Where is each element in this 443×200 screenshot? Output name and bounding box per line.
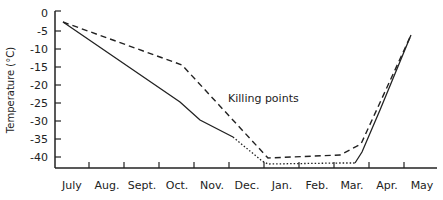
y-ticks: 0-5-10-15-20-25-30-35-40 — [30, 7, 61, 164]
x-ticks: JulyAug.Sept.Oct.Nov.Dec.Jan.Feb.Mar.Apr… — [61, 162, 434, 192]
x-tick-label: Oct. — [166, 179, 189, 192]
y-tick-label: -5 — [37, 25, 48, 38]
chart-canvas: 0-5-10-15-20-25-30-35-40 JulyAug.Sept.Oc… — [0, 0, 443, 200]
x-tick-label: Dec. — [235, 179, 260, 192]
y-tick-label: -25 — [30, 97, 48, 110]
y-tick-label: -20 — [30, 79, 48, 92]
y-tick-label: -15 — [30, 61, 48, 74]
killing-points-line — [63, 22, 411, 158]
x-tick-label: Mar. — [340, 179, 363, 192]
x-tick-label: Feb. — [306, 179, 329, 192]
x-tick-label: Jan. — [271, 179, 292, 192]
x-tick-label: Nov. — [200, 179, 224, 192]
x-tick-label: Aug. — [95, 179, 120, 192]
y-tick-label: -35 — [30, 133, 48, 146]
x-tick-label: July — [61, 179, 82, 192]
killing-points-annotation: Killing points — [228, 92, 299, 105]
temperature-dotted-segment — [233, 137, 355, 164]
temperature-line-rise — [355, 35, 411, 163]
y-tick-label: 0 — [41, 7, 48, 20]
chart: 0-5-10-15-20-25-30-35-40 JulyAug.Sept.Oc… — [0, 0, 443, 200]
temperature-line — [63, 22, 233, 137]
y-tick-label: -30 — [30, 115, 48, 128]
y-tick-label: -40 — [30, 151, 48, 164]
y-tick-label: -10 — [30, 43, 48, 56]
x-tick-label: May — [411, 179, 434, 192]
y-axis-title: Temperature (°C) — [5, 47, 16, 134]
x-tick-label: Apr. — [376, 179, 398, 192]
x-tick-label: Sept. — [128, 179, 157, 192]
